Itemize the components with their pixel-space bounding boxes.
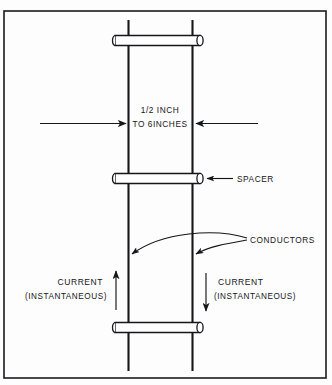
current-left-line1: CURRENT [58, 277, 103, 287]
dimension-line1: 1/2 INCH [141, 105, 180, 115]
conductors-label: CONDUCTORS [250, 235, 315, 245]
spacer-bottom [113, 322, 204, 332]
spacer-label: SPACER [237, 174, 274, 184]
spacer-top [113, 35, 204, 45]
spacer-middle [113, 173, 204, 183]
current-right-line2: (INSTANTANEOUS) [214, 292, 296, 301]
current-left-line2: (INSTANTANEOUS) [25, 292, 107, 301]
dimension-line2: TO 6INCHES [132, 119, 187, 129]
current-right-line1: CURRENT [218, 277, 263, 287]
conductors-leader-right [196, 240, 247, 254]
diagram-canvas: 1/2 INCH TO 6INCHES SPACER CONDUCTORS CU… [0, 0, 332, 385]
technical-diagram: 1/2 INCH TO 6INCHES SPACER CONDUCTORS CU… [0, 0, 332, 385]
